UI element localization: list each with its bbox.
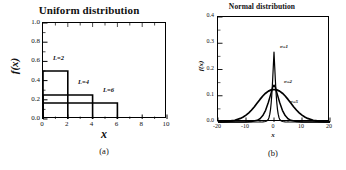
panel-b-curve-sigma-1 xyxy=(218,52,330,122)
panel-b-label-sigma-1: σ=1 xyxy=(280,44,288,49)
panel-b-ytick-3: 0.3 xyxy=(194,38,214,44)
panel-a-ytick-5: 1.0 xyxy=(16,18,40,26)
panel-a-label-L4: L=4 xyxy=(78,78,89,85)
panel-a-title: Uniform distribution xyxy=(0,4,178,16)
panel-a-label-L6: L=6 xyxy=(103,86,114,93)
panel-b-xtick-2: 0 xyxy=(263,123,283,129)
panel-a-svg xyxy=(43,23,167,119)
panel-uniform-distribution: Uniform distribution f(x) xyxy=(0,0,178,170)
panel-b-plot-area: σ=1 σ=2 σ=5 xyxy=(217,16,329,121)
panel-a-x-axis-title: x xyxy=(42,127,166,142)
panel-a-ytick-2: 0.4 xyxy=(16,76,40,84)
panel-b-x-axis-title: x xyxy=(217,131,329,139)
panel-b-ytick-4: 0.4 xyxy=(194,12,214,18)
panel-b-curve-sigma-5 xyxy=(218,90,330,123)
panel-b-ytick-2: 0.2 xyxy=(194,65,214,71)
panel-a-caption: (a) xyxy=(42,146,166,156)
panel-a-ytick-1: 0.2 xyxy=(16,95,40,103)
panel-b-curve-sigma-2 xyxy=(218,85,330,122)
panel-b-label-sigma-2: σ=2 xyxy=(284,79,292,84)
panel-b-xtick-1: -10 xyxy=(235,123,255,129)
panel-a-plot-area: L=2 L=4 L=6 xyxy=(42,22,166,118)
panel-b-xtick-4: 20 xyxy=(319,123,339,129)
panel-b-title: Normal distribution xyxy=(178,2,346,11)
panel-b-xtick-3: 10 xyxy=(291,123,311,129)
panel-b-caption: (b) xyxy=(217,148,329,158)
panel-a-label-L2: L=2 xyxy=(53,54,64,61)
panel-b-svg xyxy=(218,17,330,122)
panel-a-ytick-4: 0.8 xyxy=(16,37,40,45)
panel-normal-distribution: Normal distribution f(x) xyxy=(178,0,346,170)
panel-b-y-major-ticks xyxy=(218,17,223,122)
panel-b-xtick-0: -20 xyxy=(207,123,227,129)
panel-a-top-ticks xyxy=(55,23,154,27)
panel-a-x-minor-ticks xyxy=(55,117,154,120)
panel-a-ytick-3: 0.6 xyxy=(16,56,40,64)
panel-b-ytick-1: 0.1 xyxy=(194,91,214,97)
panel-b-label-sigma-5: σ=5 xyxy=(290,99,298,104)
figure-container: Uniform distribution f(x) xyxy=(0,0,346,170)
